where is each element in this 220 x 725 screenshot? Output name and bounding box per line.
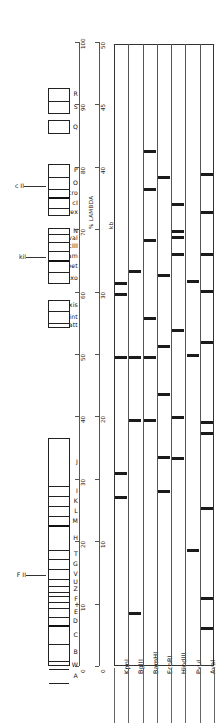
gel-band-KpnI xyxy=(115,282,127,285)
gel-band-AvaI xyxy=(201,290,213,293)
gel-band-AvaI xyxy=(201,173,213,176)
gel-band-BamHI xyxy=(144,150,156,153)
gel-band-HindIII xyxy=(172,230,184,233)
restriction-gel-panel: KpnIBglIIBamHIEcoRIHindIIIPvuIAvaI xyxy=(0,0,220,725)
gel-band-EcoRI xyxy=(158,456,170,459)
gel-band-BamHI xyxy=(144,239,156,242)
gel-band-KpnI xyxy=(115,293,127,296)
gel-band-BamHI xyxy=(144,188,156,191)
lane-label-divider xyxy=(185,668,186,723)
gel-band-PvuI xyxy=(187,549,199,552)
gel-band-KpnI xyxy=(115,496,127,499)
gel-band-HindIII xyxy=(172,203,184,206)
gel-band-BglII xyxy=(129,612,141,615)
gel-band-KpnI xyxy=(115,472,127,475)
gel-band-BamHI xyxy=(144,317,156,320)
gel-band-BglII xyxy=(129,419,141,422)
gel-band-HindIII xyxy=(172,253,184,256)
gel-band-AvaI xyxy=(201,421,213,424)
gel-band-AvaI xyxy=(201,627,213,630)
gel-band-HindIII xyxy=(172,236,184,239)
lane-label-divider xyxy=(171,668,172,723)
lambda-map-figure: RSQPOcrocIrexNvalcIIIgambetexoxisintattJ… xyxy=(0,0,220,725)
gel-band-AvaI xyxy=(201,597,213,600)
gel-band-EcoRI xyxy=(158,345,170,348)
gel-band-BglII xyxy=(129,356,141,359)
gel-band-PvuI xyxy=(187,280,199,283)
lane-label-divider xyxy=(200,668,201,723)
gel-band-EcoRI xyxy=(158,393,170,396)
gel-band-AvaI xyxy=(201,253,213,256)
gel-band-AvaI xyxy=(201,211,213,214)
gel-band-KpnI xyxy=(115,356,127,359)
gel-band-BglII xyxy=(129,270,141,273)
gel-band-HindIII xyxy=(172,457,184,460)
lane-divider xyxy=(143,44,144,666)
lane-label-divider xyxy=(214,668,215,723)
lane-label-divider xyxy=(143,668,144,723)
gel-band-EcoRI xyxy=(158,490,170,493)
gel-band-BamHI xyxy=(144,356,156,359)
gel-band-HindIII xyxy=(172,329,184,332)
lane-divider xyxy=(157,44,158,666)
gel-band-EcoRI xyxy=(158,176,170,179)
lane-divider xyxy=(128,44,129,666)
gel-band-EcoRI xyxy=(158,274,170,277)
lane-divider xyxy=(200,44,201,666)
lane-divider xyxy=(171,44,172,666)
lane-label-divider xyxy=(114,668,115,723)
gel-band-BamHI xyxy=(144,419,156,422)
gel-band-AvaI xyxy=(201,432,213,435)
lane-label-divider xyxy=(157,668,158,723)
gel-band-AvaI xyxy=(201,341,213,344)
lane-label-divider xyxy=(128,668,129,723)
gel-band-HindIII xyxy=(172,416,184,419)
gel-band-AvaI xyxy=(201,507,213,510)
gel-band-PvuI xyxy=(187,354,199,357)
